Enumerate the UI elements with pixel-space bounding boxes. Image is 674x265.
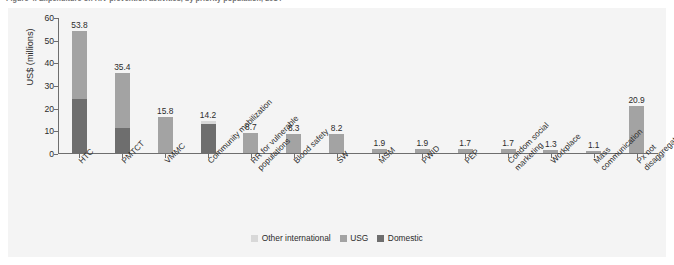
x-tick-label: SW	[335, 150, 351, 166]
x-tick-label: PMTCT	[120, 139, 147, 166]
y-tick-label: 0	[32, 150, 54, 159]
chart-legend: Other internationalUSGDomestic	[0, 234, 674, 242]
y-tick-label: 20	[32, 104, 54, 113]
legend-swatch-icon	[377, 235, 384, 242]
x-tick-label: MSM	[377, 145, 397, 165]
y-tick-label: 60	[32, 14, 54, 23]
legend-item-usg[interactable]: USG	[340, 234, 369, 242]
y-tick-label: 50	[32, 36, 54, 45]
legend-item-domestic[interactable]: Domestic	[377, 234, 422, 242]
y-tick-label: 40	[32, 59, 54, 68]
y-tick-label: 10	[32, 127, 54, 136]
legend-swatch-icon	[340, 235, 347, 242]
legend-item-other[interactable]: Other international	[251, 234, 330, 242]
legend-label: Domestic	[388, 234, 423, 242]
figure-container: Figure 4. Expenditure on HIV prevention …	[0, 0, 674, 265]
legend-swatch-icon	[251, 235, 258, 242]
x-tick-label: PWID	[420, 144, 442, 166]
y-axis-tick-labels: 0102030405060	[30, 0, 54, 265]
legend-label: USG	[350, 234, 368, 242]
x-tick-label: HTC	[77, 147, 96, 166]
x-axis-tick-labels: HTCPMTCTVMMCCommunity mobilizationRR for…	[58, 0, 658, 265]
legend-label: Other international	[262, 234, 331, 242]
x-tick-label: VMMC	[163, 141, 188, 166]
x-tick-label: Condom social marketing	[506, 121, 558, 173]
x-tick-label: PEP	[463, 147, 481, 165]
y-tick-label: 30	[32, 82, 54, 91]
